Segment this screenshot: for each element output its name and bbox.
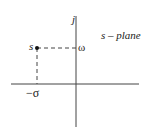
point-label: s — [29, 41, 33, 52]
real-coord-label: −σ — [26, 87, 39, 99]
imag-axis-label: j — [72, 14, 75, 25]
point-s — [35, 46, 39, 50]
imag-coord-label: ω — [78, 42, 85, 53]
diagram-title: s – plane — [101, 30, 141, 41]
